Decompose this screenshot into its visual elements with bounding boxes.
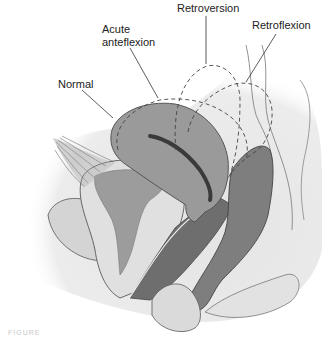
label-retroflexion: Retroflexion [252,19,311,32]
figure-caption: FIGURE [8,329,40,336]
leader-normal [82,90,113,118]
label-retroversion: Retroversion [177,2,239,15]
label-acute-anteflexion: Acute anteflexion [102,23,155,49]
label-normal: Normal [58,78,93,91]
uterine-position-diagram [0,0,322,338]
leader-acute-anteflexion [130,48,158,98]
